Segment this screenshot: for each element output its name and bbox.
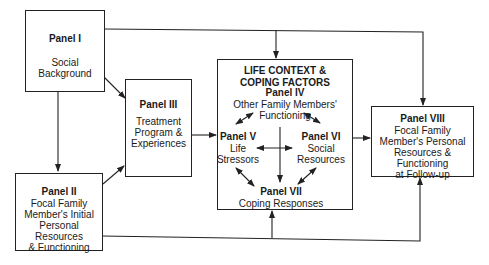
panel-iv-label: Panel IV Other Family Members' Functioni… bbox=[227, 87, 343, 121]
panel-iii-title: Panel III bbox=[140, 99, 178, 111]
panel-v-label: Panel V Life Stressors bbox=[216, 131, 260, 165]
panel-ii-line: Focal Family bbox=[31, 198, 88, 209]
life-context-heading: LIFE CONTEXT & bbox=[244, 65, 326, 77]
panel-i-line: Background bbox=[38, 68, 91, 79]
panel-ii-line: & Functioning bbox=[28, 242, 89, 253]
panel-iii-line: Experiences bbox=[131, 138, 186, 149]
panel-viii-box: Panel VIII Focal Family Member's Persona… bbox=[371, 106, 474, 177]
panel-viii-line: Resources & Functioning bbox=[372, 147, 473, 169]
panel-viii-line: at Follow-up bbox=[395, 169, 449, 180]
panel-viii-line: Focal Family bbox=[394, 125, 451, 136]
panel-iii-box: Panel III Treatment Program & Experience… bbox=[125, 79, 192, 177]
panel-viii-line: Member's Personal bbox=[380, 136, 466, 147]
panel-ii-line: Personal Resources bbox=[16, 220, 102, 242]
panel-vi-label: Panel VI Social Resources bbox=[295, 131, 347, 165]
panel-ii-box: Panel II Focal Family Member's Initial P… bbox=[15, 173, 103, 251]
panel-ii-title: Panel II bbox=[41, 186, 76, 198]
panel-i-box: Panel I Social Background bbox=[25, 10, 105, 92]
panel-viii-title: Panel VIII bbox=[400, 113, 444, 125]
panel-vii-label: Panel VII Coping Responses bbox=[236, 186, 326, 209]
panel-i-title: Panel I bbox=[49, 33, 81, 45]
panel-iii-line: Treatment bbox=[136, 116, 181, 127]
panel-i-line: Social bbox=[51, 57, 78, 68]
panel-iii-line: Program & bbox=[135, 127, 183, 138]
panel-ii-line: Member's Initial bbox=[24, 209, 94, 220]
